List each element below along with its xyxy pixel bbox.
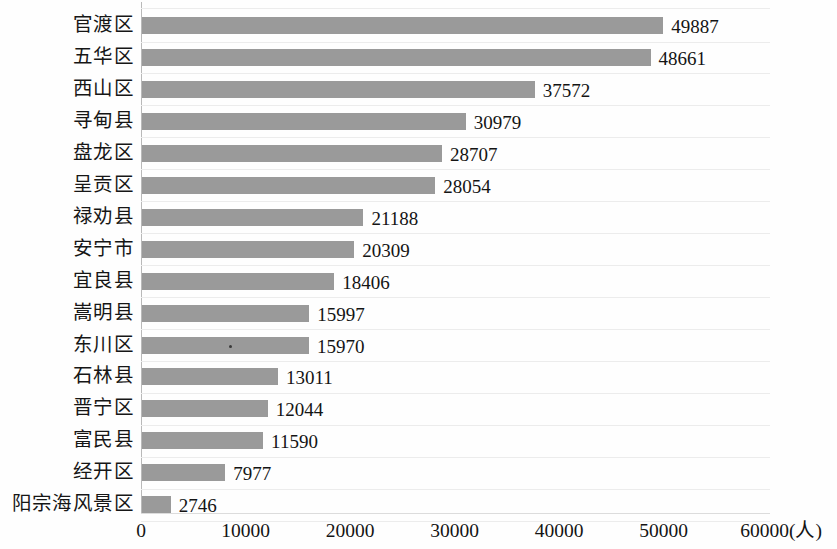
gridline — [141, 105, 770, 106]
gridline — [141, 8, 770, 9]
bar-value-label: 49887 — [671, 18, 719, 35]
bar — [142, 400, 268, 417]
gridline — [141, 169, 770, 170]
bar — [142, 81, 535, 98]
bar — [142, 17, 663, 34]
bar-value-label: 28707 — [450, 146, 498, 163]
plot-area: 4988748661375723097928707280542118820309… — [141, 2, 770, 513]
x-tick-label: 60000(人) — [740, 519, 822, 543]
category-label: 禄劝县 — [0, 207, 134, 226]
x-axis-line — [141, 513, 770, 514]
x-axis-tick-labels: 0100002000030000400005000060000(人) — [0, 519, 837, 549]
gridline — [141, 233, 770, 234]
bar — [142, 464, 225, 481]
category-label: 东川区 — [0, 335, 134, 354]
bar — [142, 305, 309, 322]
x-axis-unit-label: (人) — [789, 520, 822, 541]
bar-value-label: 12044 — [276, 401, 324, 418]
x-tick-label: 40000 — [535, 519, 584, 543]
gridline — [141, 329, 770, 330]
bar-value-label: 11590 — [271, 433, 318, 450]
bar — [142, 432, 263, 449]
gridline — [141, 265, 770, 266]
category-label: 西山区 — [0, 79, 134, 98]
gridline — [141, 361, 770, 362]
bar — [142, 177, 435, 194]
category-label: 寻甸县 — [0, 111, 134, 130]
x-tick-label: 10000 — [221, 519, 270, 543]
bar-value-label: 28054 — [443, 178, 491, 195]
gridline — [141, 73, 770, 74]
category-axis-labels: 官渡区五华区西山区寻甸县盘龙区呈贡区禄劝县安宁市宜良县嵩明县东川区石林县晋宁区富… — [0, 0, 134, 512]
bar-value-label: 15970 — [317, 338, 365, 355]
bar-value-label: 13011 — [286, 369, 333, 386]
gridline — [141, 425, 770, 426]
bar — [142, 113, 466, 130]
gridline — [141, 201, 770, 202]
bar-value-label: 20309 — [362, 242, 410, 259]
category-label: 安宁市 — [0, 239, 134, 258]
gridline — [141, 457, 770, 458]
category-label: 经开区 — [0, 462, 134, 481]
category-label: 盘龙区 — [0, 143, 134, 162]
bar-value-label: 2746 — [179, 497, 217, 514]
bar-chart: 官渡区五华区西山区寻甸县盘龙区呈贡区禄劝县安宁市宜良县嵩明县东川区石林县晋宁区富… — [0, 0, 837, 549]
bar-value-label: 21188 — [371, 210, 418, 227]
bar-value-label: 48661 — [659, 50, 707, 67]
category-label: 官渡区 — [0, 15, 134, 34]
category-label: 富民县 — [0, 430, 134, 449]
category-label: 石林县 — [0, 366, 134, 385]
bar — [142, 209, 363, 226]
category-label: 阳宗海风景区 — [0, 494, 134, 513]
bar — [142, 145, 442, 162]
gridline — [141, 489, 770, 490]
gridline — [141, 137, 770, 138]
x-tick-label: 20000 — [326, 519, 375, 543]
bar — [142, 273, 334, 290]
bar-value-label: 18406 — [342, 274, 390, 291]
category-label: 晋宁区 — [0, 398, 134, 417]
bar-value-label: 37572 — [543, 82, 591, 99]
x-tick-label: 50000 — [639, 519, 688, 543]
category-label: 嵩明县 — [0, 303, 134, 322]
bar-value-label: 15997 — [317, 306, 365, 323]
gridline — [141, 42, 770, 43]
category-label: 宜良县 — [0, 271, 134, 290]
category-label: 呈贡区 — [0, 175, 134, 194]
bar — [142, 337, 309, 354]
bar-value-label: 30979 — [474, 114, 522, 131]
scan-speck-artifact — [229, 345, 232, 348]
gridline — [141, 393, 770, 394]
bar — [142, 368, 278, 385]
x-tick-label: 30000 — [430, 519, 479, 543]
bar — [142, 49, 651, 66]
category-label: 五华区 — [0, 47, 134, 66]
x-tick-label: 0 — [136, 519, 146, 543]
bar — [142, 496, 171, 513]
bar-value-label: 7977 — [233, 465, 271, 482]
gridline — [141, 297, 770, 298]
bar — [142, 241, 354, 258]
